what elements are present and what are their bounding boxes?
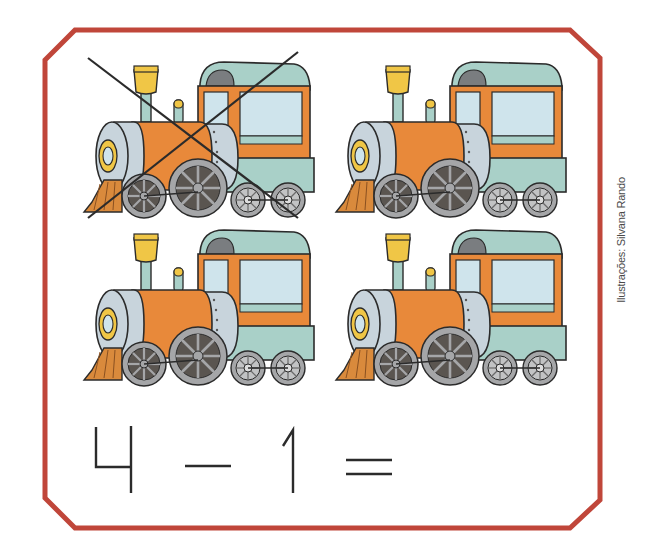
illustration-credit: Ilustrações: Silvana Rando xyxy=(611,140,631,340)
credit-text: Ilustrações: Silvana Rando xyxy=(615,177,627,303)
exercise-canvas xyxy=(0,0,657,549)
